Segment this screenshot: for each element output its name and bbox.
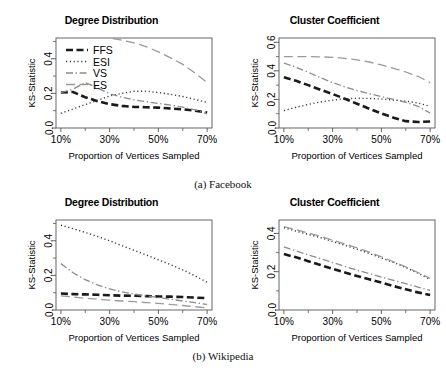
y-tick-label: 0.2	[44, 86, 55, 100]
panel-facebook-cluster-coefficient: Cluster Coefficient 10%30%50%70%0.00.20.…	[223, 0, 446, 180]
y-tick-label: 0.0	[44, 121, 55, 135]
legend-label-esi: ESI	[93, 56, 110, 68]
y-tick-label: 0.4	[267, 63, 278, 77]
y-tick-label: 0.0	[267, 303, 278, 317]
series-line-vs	[284, 247, 430, 291]
series-line-vs	[284, 63, 430, 113]
legend-label-vs: VS	[93, 67, 107, 79]
y-tick-label: 0.0	[267, 121, 278, 135]
x-tick-label: 30%	[323, 134, 343, 145]
caption-wikipedia: (b) Wikipedia	[0, 350, 446, 362]
series-line-es	[284, 227, 430, 279]
series-line-esi	[61, 225, 207, 282]
y-axis-label: KS-Statistic	[26, 58, 37, 107]
x-tick-label: 30%	[100, 316, 120, 327]
series-line-es	[284, 57, 430, 83]
plot-box	[279, 38, 435, 128]
x-axis-label: Proportion of Vertices Sampled	[69, 150, 200, 161]
x-axis-label: Proportion of Vertices Sampled	[69, 332, 200, 343]
series-line-ffs	[284, 254, 430, 295]
x-tick-label: 70%	[197, 134, 217, 145]
x-tick-label: 70%	[197, 316, 217, 327]
y-tick-label: 0.4	[44, 233, 55, 247]
y-tick-label: 0.6	[267, 35, 278, 49]
figure-root: Degree Distribution 10%30%50%70%0.00.20.…	[0, 0, 446, 389]
row-wikipedia: Degree Distribution 10%30%50%70%0.00.20.…	[0, 180, 446, 369]
x-tick-label: 30%	[100, 134, 120, 145]
y-axis-label: KS-Statistic	[249, 58, 260, 107]
series-line-es	[61, 24, 207, 83]
x-tick-label: 30%	[323, 316, 343, 327]
plot-facebook-cluster-coefficient: 10%30%50%70%0.00.20.40.6Proportion of Ve…	[223, 0, 446, 180]
x-axis-label: Proportion of Vertices Sampled	[292, 332, 423, 343]
x-tick-label: 50%	[148, 316, 168, 327]
y-tick-label: 0.4	[44, 51, 55, 65]
panel-wikipedia-cluster-coefficient: Cluster Coefficient 10%30%50%70%0.00.20.…	[223, 180, 446, 360]
row-facebook: Degree Distribution 10%30%50%70%0.00.20.…	[0, 0, 446, 180]
y-tick-label: 0.4	[267, 226, 278, 240]
y-axis-label: KS-Statistic	[249, 240, 260, 289]
x-tick-label: 50%	[371, 316, 391, 327]
x-tick-label: 70%	[420, 134, 440, 145]
x-tick-label: 50%	[371, 134, 391, 145]
panel-wikipedia-degree-distribution: Degree Distribution 10%30%50%70%0.00.20.…	[0, 180, 223, 360]
series-line-ffs	[284, 77, 430, 122]
legend-label-es: ES	[93, 79, 107, 91]
plot-wikipedia-degree-distribution: 10%30%50%70%0.00.20.4Proportion of Verti…	[0, 180, 223, 360]
y-axis-label: KS-Statistic	[26, 240, 37, 289]
series-line-esi	[284, 228, 430, 280]
x-axis-label: Proportion of Vertices Sampled	[292, 150, 423, 161]
x-tick-label: 70%	[420, 316, 440, 327]
y-tick-label: 0.0	[44, 303, 55, 317]
legend-label-ffs: FFS	[93, 44, 113, 56]
x-tick-label: 50%	[148, 134, 168, 145]
y-tick-label: 0.2	[267, 264, 278, 278]
y-tick-label: 0.2	[44, 268, 55, 282]
plot-wikipedia-cluster-coefficient: 10%30%50%70%0.00.20.4Proportion of Verti…	[223, 180, 446, 360]
plot-facebook-degree-distribution: 10%30%50%70%0.00.20.4Proportion of Verti…	[0, 0, 223, 180]
plot-box	[56, 38, 212, 128]
panel-facebook-degree-distribution: Degree Distribution 10%30%50%70%0.00.20.…	[0, 0, 223, 180]
y-tick-label: 0.2	[267, 92, 278, 106]
series-line-ffs	[61, 92, 207, 112]
